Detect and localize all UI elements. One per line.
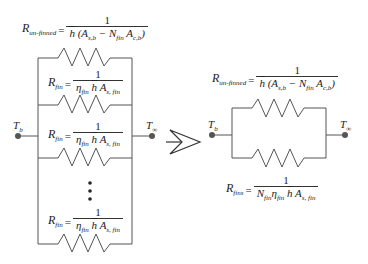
equation-r-unfinned-left: Run-finned = 1 h (As,b − Nfin Ac,b): [22, 14, 148, 45]
equation-r-fins: Rfins = 1 Nfinηfin h As, fin: [226, 174, 318, 205]
label-tinf-right: T∞: [340, 118, 351, 133]
equation-r-unfinned-right: Run-finned = 1 h (As,b − Nfin Ac,b): [212, 64, 338, 95]
resistor-unfinned-right: [232, 99, 326, 117]
equation-r-fin-2: Rfin = 1 ηfin h As, fin: [48, 120, 123, 151]
equation-r-fin-n: Rfin = 1 ηfin h As, fin: [48, 206, 123, 237]
right-network: [209, 99, 348, 167]
equation-r-fin-1: Rfin = 1 ηfin h As, fin: [48, 68, 123, 99]
label-tb-left: Tb: [13, 119, 23, 134]
label-tinf-left: T∞: [146, 119, 157, 134]
label-tb-right: Tb: [208, 118, 218, 133]
resistor-fins-right: [232, 149, 326, 167]
resistor-unfinned: [38, 48, 132, 66]
